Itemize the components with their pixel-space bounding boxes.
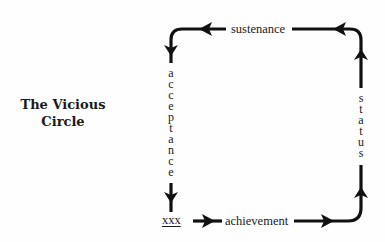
label-acceptance: a c c e p t a n c e [165,68,177,178]
cycle-arrows [0,0,385,242]
top-right-connector [292,29,361,88]
top-left-connector [171,29,226,63]
label-sustenance: sustenance [231,22,285,36]
label-xxx: xxx [162,213,181,227]
label-achievement: achievement [225,214,288,228]
bottom-right-connector [294,165,361,221]
letter: e [168,167,173,178]
letter: s [359,148,364,159]
label-status: s t a t u s [355,93,367,159]
vicious-circle-diagram: The Vicious Circle [0,0,385,242]
